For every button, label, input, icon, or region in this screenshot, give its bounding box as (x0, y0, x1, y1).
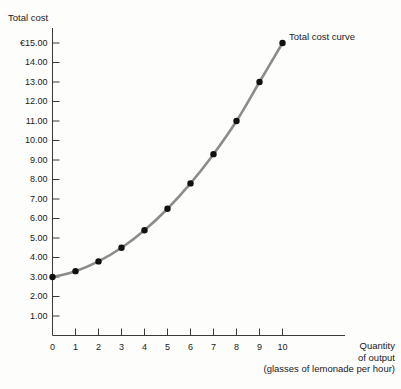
y-tick-label-1: 1.00 (30, 312, 48, 321)
series-label-total-cost-curve: Total cost curve (289, 32, 355, 42)
data-point-q3 (118, 245, 124, 251)
x-axis-title-line-3: (glasses of lemonade per hour) (264, 363, 396, 375)
data-point-q6 (187, 180, 193, 186)
data-point-markers (49, 40, 285, 280)
data-point-q4 (141, 227, 147, 233)
y-tick-label-11: 11.00 (26, 117, 48, 126)
y-axis-title: Total cost (8, 12, 48, 24)
data-point-q10 (279, 40, 285, 46)
x-axis-ticks (76, 329, 283, 336)
data-point-q7 (210, 151, 216, 157)
plot-area (0, 0, 401, 389)
data-point-q8 (233, 118, 239, 124)
y-tick-label-15: €15.00 (20, 39, 48, 48)
y-tick-label-2: 2.00 (30, 292, 48, 301)
data-point-q0 (49, 274, 55, 280)
y-tick-label-3: 3.00 (30, 273, 48, 282)
y-tick-label-6: 6.00 (30, 214, 48, 223)
y-tick-label-4: 4.00 (30, 253, 48, 262)
y-tick-label-10: 10.00 (25, 136, 48, 145)
total-cost-curve-line (53, 43, 283, 277)
data-point-q5 (164, 206, 170, 212)
y-tick-label-12: 12.00 (25, 97, 48, 106)
total-cost-chart: Total cost Quantity of output (glasses o… (0, 0, 401, 389)
y-tick-label-7: 7.00 (30, 195, 48, 204)
y-tick-label-13: 13.00 (25, 78, 48, 87)
x-axis-title-line-2: of output (264, 352, 396, 364)
data-point-q2 (95, 258, 101, 264)
y-tick-label-8: 8.00 (30, 175, 48, 184)
y-tick-label-14: 14.00 (25, 58, 48, 67)
data-point-q9 (256, 79, 262, 85)
x-tick-label-10: 10 (268, 343, 298, 352)
y-tick-label-5: 5.00 (30, 234, 48, 243)
y-tick-label-9: 9.00 (30, 156, 48, 165)
axis-lines (53, 28, 346, 336)
data-point-q1 (72, 268, 78, 274)
